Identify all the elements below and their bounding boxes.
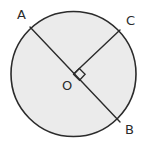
point-label-b: B xyxy=(125,123,134,136)
point-label-a: A xyxy=(17,8,26,21)
point-label-o: O xyxy=(62,79,72,92)
point-label-c: C xyxy=(126,14,135,27)
circle-diagram: A C O B xyxy=(0,0,147,149)
